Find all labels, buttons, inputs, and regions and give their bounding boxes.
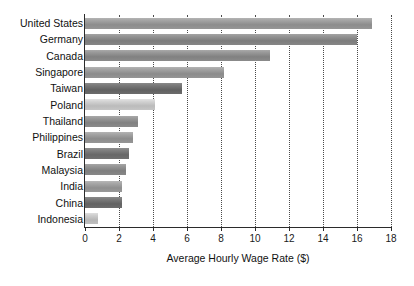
bar bbox=[85, 148, 129, 159]
bar bbox=[85, 50, 270, 61]
bar bbox=[85, 197, 122, 208]
tick-mark bbox=[323, 227, 324, 231]
bar bbox=[85, 181, 122, 192]
gridline bbox=[289, 15, 290, 227]
bar-row bbox=[85, 116, 138, 127]
tick-mark bbox=[255, 227, 256, 231]
bar-row bbox=[85, 213, 98, 224]
gridline bbox=[221, 15, 222, 227]
x-axis-line bbox=[84, 227, 392, 228]
bar bbox=[85, 67, 224, 78]
x-axis-title-text: Average Hourly Wage Rate ($) bbox=[167, 252, 310, 264]
gridline bbox=[323, 15, 324, 227]
gridline bbox=[255, 15, 256, 227]
category-label: Poland bbox=[50, 99, 83, 111]
bar-row bbox=[85, 99, 155, 110]
tick-mark bbox=[153, 227, 154, 231]
x-tick-label: 16 bbox=[345, 233, 369, 245]
x-tick-label: 4 bbox=[141, 233, 165, 245]
plot-area bbox=[85, 15, 391, 227]
x-tick-label: 18 bbox=[379, 233, 403, 245]
tick-mark bbox=[357, 227, 358, 231]
bar-row bbox=[85, 148, 129, 159]
tick-mark bbox=[391, 227, 392, 231]
x-tick-label: 8 bbox=[209, 233, 233, 245]
tick-mark bbox=[221, 227, 222, 231]
category-label: Germany bbox=[40, 33, 83, 45]
x-axis-title: Average Hourly Wage Rate ($) bbox=[0, 252, 414, 264]
bar-row bbox=[85, 18, 372, 29]
category-label: Brazil bbox=[57, 148, 83, 160]
bar-row bbox=[85, 181, 122, 192]
category-label: Malaysia bbox=[42, 164, 83, 176]
bar-row bbox=[85, 132, 133, 143]
bar-row bbox=[85, 67, 224, 78]
gridline bbox=[187, 15, 188, 227]
tick-mark bbox=[187, 227, 188, 231]
bar bbox=[85, 18, 372, 29]
gridline bbox=[153, 15, 154, 227]
gridline bbox=[357, 15, 358, 227]
category-label: China bbox=[56, 197, 83, 209]
bar-row bbox=[85, 34, 357, 45]
category-label: Canada bbox=[46, 50, 83, 62]
x-tick-label: 12 bbox=[277, 233, 301, 245]
tick-mark bbox=[85, 227, 86, 231]
x-tick-label: 0 bbox=[73, 233, 97, 245]
bar-row bbox=[85, 50, 270, 61]
category-label: United States bbox=[20, 17, 83, 29]
x-tick-label: 14 bbox=[311, 233, 335, 245]
x-tick-label: 6 bbox=[175, 233, 199, 245]
tick-mark bbox=[289, 227, 290, 231]
bar-row bbox=[85, 83, 182, 94]
x-tick-label: 2 bbox=[107, 233, 131, 245]
category-label: Singapore bbox=[35, 66, 83, 78]
bar bbox=[85, 99, 155, 110]
bar-row bbox=[85, 164, 126, 175]
bar bbox=[85, 213, 98, 224]
bar bbox=[85, 132, 133, 143]
bar-row bbox=[85, 197, 122, 208]
category-label: Philippines bbox=[32, 131, 83, 143]
tick-mark bbox=[119, 227, 120, 231]
bar bbox=[85, 164, 126, 175]
bar bbox=[85, 83, 182, 94]
category-label: Thailand bbox=[43, 115, 83, 127]
x-tick-label: 10 bbox=[243, 233, 267, 245]
bar bbox=[85, 116, 138, 127]
bar bbox=[85, 34, 357, 45]
bar-chart: 024681012141618 United StatesGermanyCana… bbox=[0, 0, 414, 286]
category-label: India bbox=[60, 180, 83, 192]
category-label: Taiwan bbox=[50, 82, 83, 94]
category-label: Indonesia bbox=[37, 213, 83, 225]
gridline bbox=[391, 15, 392, 227]
